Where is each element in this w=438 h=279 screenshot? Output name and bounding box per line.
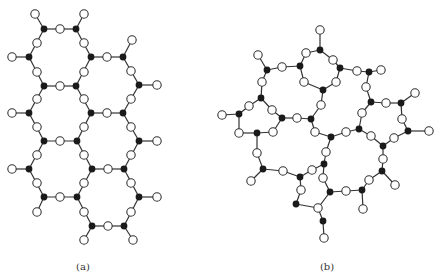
black-atom-node — [41, 83, 48, 90]
black-atom-node — [41, 194, 48, 201]
white-atom-node — [332, 78, 340, 86]
black-atom-node — [320, 87, 327, 94]
white-atom-node — [317, 101, 325, 109]
white-atom-node — [56, 82, 64, 90]
white-atom-node — [56, 193, 64, 201]
black-atom-node — [260, 166, 267, 173]
black-atom-node — [279, 115, 286, 122]
white-atom-node — [127, 151, 135, 159]
black-atom-node — [26, 110, 33, 117]
white-atom-node — [33, 95, 41, 103]
white-atom-node — [129, 236, 137, 244]
white-atom-node — [302, 49, 310, 57]
black-atom-node — [398, 100, 405, 107]
white-atom-node — [390, 134, 398, 142]
black-atom-node — [121, 223, 128, 230]
panel-b-label: (b) — [320, 261, 334, 272]
white-atom-node — [33, 151, 41, 159]
white-atom-node — [308, 166, 316, 174]
white-atom-node — [127, 179, 135, 187]
white-atom-node — [379, 155, 387, 163]
white-atom-node — [8, 165, 16, 173]
black-atom-node — [380, 143, 387, 150]
white-atom-node — [268, 106, 276, 114]
black-atom-node — [379, 168, 386, 175]
white-atom-node — [391, 181, 399, 189]
white-atom-node — [359, 205, 367, 213]
white-atom-node — [342, 128, 350, 136]
white-atom-node — [127, 67, 135, 75]
black-atom-node — [120, 110, 127, 117]
white-atom-node — [254, 51, 262, 59]
white-atom-node — [80, 95, 88, 103]
white-atom-node — [56, 25, 64, 33]
black-atom-node — [356, 126, 363, 133]
black-atom-node — [136, 194, 143, 201]
black-atom-node — [405, 128, 412, 135]
white-atom-node — [322, 148, 330, 156]
black-atom-node — [297, 174, 304, 181]
white-atom-node — [33, 179, 41, 187]
white-atom-node — [293, 114, 301, 122]
panel-a-label: (a) — [76, 261, 90, 272]
white-atom-node — [33, 208, 41, 216]
white-atom-node — [153, 81, 161, 89]
white-atom-node — [33, 39, 41, 47]
white-atom-node — [319, 174, 327, 182]
white-atom-node — [358, 109, 366, 117]
white-atom-node — [127, 123, 135, 131]
black-atom-node — [359, 187, 366, 194]
white-atom-node — [33, 123, 41, 131]
black-atom-node — [264, 67, 271, 74]
black-atom-node — [254, 130, 261, 137]
black-atom-node — [74, 138, 81, 145]
white-atom-node — [311, 128, 319, 136]
black-atom-node — [89, 223, 96, 230]
black-atom-node — [366, 69, 373, 76]
black-atom-node — [258, 95, 265, 102]
black-atom-node — [26, 166, 33, 173]
white-atom-node — [104, 222, 112, 230]
white-atom-node — [218, 111, 226, 119]
white-atom-node — [80, 208, 88, 216]
black-atom-node — [89, 166, 96, 173]
white-atom-node — [382, 99, 390, 107]
white-atom-node — [247, 177, 255, 185]
black-atom-node — [327, 189, 334, 196]
white-atom-node — [80, 179, 88, 187]
white-atom-node — [104, 165, 112, 173]
black-atom-node — [136, 82, 143, 89]
white-atom-node — [253, 149, 261, 157]
white-atom-node — [278, 63, 286, 71]
white-atom-node — [80, 68, 88, 76]
white-atom-node — [329, 56, 337, 64]
white-atom-node — [300, 78, 308, 86]
black-atom-node — [73, 83, 80, 90]
white-atom-node — [377, 66, 385, 74]
white-atom-node — [128, 36, 136, 44]
black-atom-node — [26, 54, 33, 61]
panel-a-ordered-network — [8, 10, 161, 244]
black-atom-node — [317, 47, 324, 54]
white-atom-node — [365, 176, 373, 184]
black-atom-node — [120, 54, 127, 61]
white-atom-node — [367, 132, 375, 140]
white-atom-node — [153, 137, 161, 145]
white-atom-node — [258, 78, 266, 86]
black-atom-node — [297, 63, 304, 70]
white-atom-node — [103, 53, 111, 61]
white-atom-node — [153, 193, 161, 201]
white-atom-node — [8, 109, 16, 117]
black-atom-node — [136, 138, 143, 145]
black-atom-node — [328, 134, 335, 141]
black-atom-node — [88, 54, 95, 61]
white-atom-node — [425, 127, 433, 135]
black-atom-node — [88, 110, 95, 117]
white-atom-node — [320, 234, 328, 242]
panel-b-random-network — [218, 26, 433, 242]
white-atom-node — [398, 115, 406, 123]
white-atom-node — [33, 68, 41, 76]
black-atom-node — [308, 116, 315, 123]
white-atom-node — [342, 187, 350, 195]
black-atom-node — [293, 201, 300, 208]
